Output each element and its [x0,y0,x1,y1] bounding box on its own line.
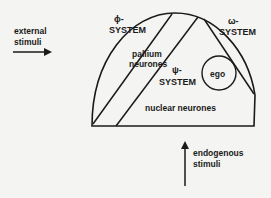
endogenous-label-1: endogenous [193,148,244,158]
ego-label: ego [210,69,225,79]
arrowhead-right-icon [44,48,52,56]
phi-system-label: SYSTEM [109,25,146,35]
omega-symbol: ω- [228,16,239,26]
omega-system-label: SYSTEM [219,27,256,37]
external-label-1: external [14,26,47,36]
psi-symbol: ψ- [172,65,182,75]
phi-symbol: ϕ- [114,14,124,24]
psi-system-label: SYSTEM [159,77,196,87]
pallium-label-2: neurones [129,59,168,69]
pallium-label-1: pallium [132,49,162,59]
psychic-apparatus-diagram: external stimuli ϕ- SYSTEM ω- SYSTEM pal… [0,0,271,198]
nuclear-neurones-label: nuclear neurones [145,103,216,113]
endogenous-label-2: stimuli [193,159,220,169]
arrowhead-up-icon [181,141,189,149]
external-label-2: stimuli [14,37,41,47]
